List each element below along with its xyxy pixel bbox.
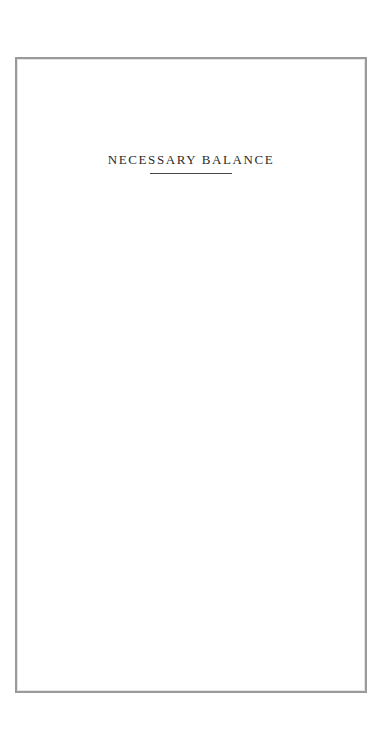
title-block: NECESSARY BALANCE bbox=[17, 150, 365, 174]
page-title: NECESSARY BALANCE bbox=[108, 153, 275, 167]
page-frame: NECESSARY BALANCE bbox=[15, 57, 367, 693]
title-underline-divider bbox=[150, 173, 232, 174]
